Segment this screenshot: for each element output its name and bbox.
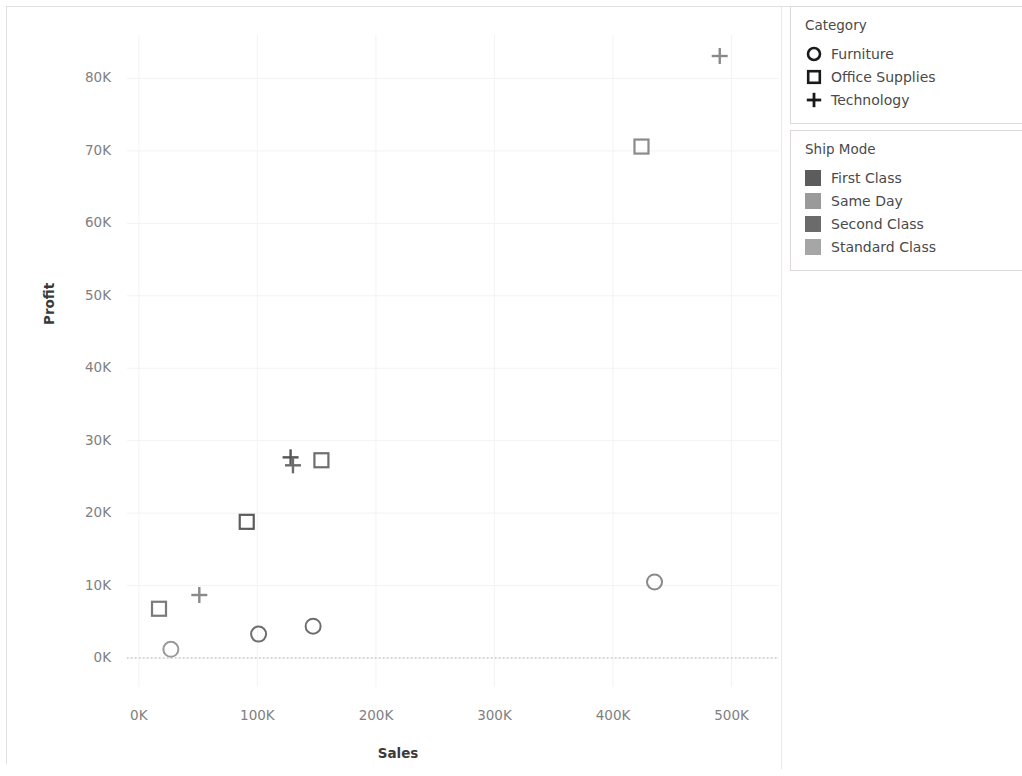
square-marker-icon[interactable] (314, 453, 328, 467)
color-swatch-icon (805, 170, 821, 186)
plus-marker-icon (805, 91, 823, 109)
y-tick-label: 70K (85, 142, 111, 158)
data-point-square[interactable] (634, 140, 648, 154)
square-marker-icon[interactable] (152, 602, 166, 616)
legend-title-category: Category (805, 17, 1022, 33)
pane-divider (781, 7, 782, 769)
data-point-plus[interactable] (712, 48, 728, 64)
data-point-circle[interactable] (163, 642, 178, 657)
legend-title-ship-mode: Ship Mode (805, 141, 1022, 157)
x-tick-label: 100K (240, 707, 275, 723)
x-tick-label: 300K (477, 707, 512, 723)
color-swatch-icon[interactable] (805, 170, 827, 186)
data-point-plus[interactable] (285, 457, 301, 473)
color-swatch-icon (805, 193, 821, 209)
data-point-square[interactable] (152, 602, 166, 616)
plus-marker-icon[interactable] (805, 91, 827, 109)
data-point-square[interactable] (314, 453, 328, 467)
circle-marker-icon[interactable] (251, 627, 266, 642)
legend-item[interactable]: Second Class (805, 212, 1022, 235)
y-tick-label: 40K (85, 359, 111, 375)
legend-item[interactable]: Furniture (805, 42, 1022, 65)
circle-marker-icon (805, 45, 823, 63)
y-tick-label: 20K (85, 504, 111, 520)
legend-item-label: Standard Class (831, 239, 936, 255)
legend-item[interactable]: Office Supplies (805, 65, 1022, 88)
y-tick-label: 0K (94, 649, 111, 665)
plot-area[interactable] (127, 35, 779, 687)
x-tick-label: 400K (596, 707, 631, 723)
circle-marker-icon[interactable] (805, 45, 827, 63)
y-axis-tick-labels: 0K10K20K30K40K50K60K70K80K (7, 7, 119, 769)
legend-item-label: Office Supplies (831, 69, 936, 85)
y-axis-title: Profit (41, 283, 57, 325)
y-tick-label: 80K (85, 69, 111, 85)
data-point-circle[interactable] (647, 574, 662, 589)
color-swatch-icon (805, 216, 821, 232)
square-marker-icon[interactable] (240, 515, 254, 529)
data-point-plus[interactable] (191, 587, 207, 603)
legend-pane[interactable]: CategoryFurnitureOffice SuppliesTechnolo… (790, 6, 1015, 776)
y-tick-label: 30K (85, 432, 111, 448)
legend-item-label: Same Day (831, 193, 903, 209)
square-marker-icon[interactable] (805, 68, 827, 86)
legend-item-label: First Class (831, 170, 902, 186)
circle-marker-icon[interactable] (647, 574, 662, 589)
color-swatch-icon[interactable] (805, 193, 827, 209)
legend-card-ship-mode[interactable]: Ship ModeFirst ClassSame DaySecond Class… (790, 130, 1022, 271)
square-marker-icon (805, 68, 823, 86)
circle-marker-icon[interactable] (163, 642, 178, 657)
x-tick-label: 500K (714, 707, 749, 723)
y-tick-label: 10K (85, 577, 111, 593)
plot-svg (127, 35, 779, 687)
x-axis-tick-labels: 0K100K200K300K400K500K (7, 707, 789, 731)
legend-card-category[interactable]: CategoryFurnitureOffice SuppliesTechnolo… (790, 6, 1022, 124)
data-point-plus[interactable] (283, 449, 299, 465)
circle-marker-icon[interactable] (306, 619, 321, 634)
color-swatch-icon[interactable] (805, 216, 827, 232)
legend-item-label: Second Class (831, 216, 924, 232)
legend-item-label: Technology (831, 92, 909, 108)
x-axis-title: Sales (7, 745, 789, 761)
y-tick-label: 60K (85, 214, 111, 230)
x-tick-label: 0K (130, 707, 147, 723)
x-tick-label: 200K (359, 707, 394, 723)
legend-item[interactable]: First Class (805, 166, 1022, 189)
legend-item[interactable]: Same Day (805, 189, 1022, 212)
legend-item[interactable]: Standard Class (805, 235, 1022, 258)
square-marker-icon[interactable] (634, 140, 648, 154)
color-swatch-icon (805, 239, 821, 255)
legend-item[interactable]: Technology (805, 88, 1022, 111)
data-point-circle[interactable] (306, 619, 321, 634)
y-tick-label: 50K (85, 287, 111, 303)
legend-item-label: Furniture (831, 46, 894, 62)
color-swatch-icon[interactable] (805, 239, 827, 255)
scatter-chart-pane[interactable]: 0K10K20K30K40K50K60K70K80K 0K100K200K300… (7, 7, 782, 769)
data-point-circle[interactable] (251, 627, 266, 642)
data-point-square[interactable] (240, 515, 254, 529)
